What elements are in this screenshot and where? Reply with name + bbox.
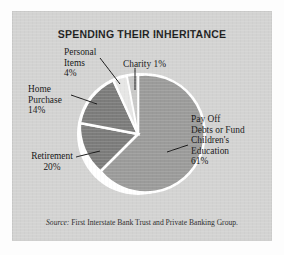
source-note-prefix: Source:	[46, 218, 69, 227]
figure-root: SPENDING THEIR INHERITANCE Personal Item…	[0, 0, 284, 255]
chart-panel: SPENDING THEIR INHERITANCE Personal Item…	[12, 11, 272, 241]
pie-label-personal-items: Personal Items 4%	[64, 47, 96, 79]
source-note-text: First Interstate Bank Trust and Private …	[69, 218, 238, 227]
pie-label-retirement: Retirement 20%	[20, 151, 84, 172]
source-note: Source: First Interstate Bank Trust and …	[12, 218, 272, 227]
pie-label-home-purchase: Home Purchase 14%	[28, 84, 62, 116]
pie-label-payoff: Pay Off Debts or Fund Children's Educati…	[191, 114, 245, 167]
pie-label-charity: Charity 1%	[123, 59, 166, 70]
